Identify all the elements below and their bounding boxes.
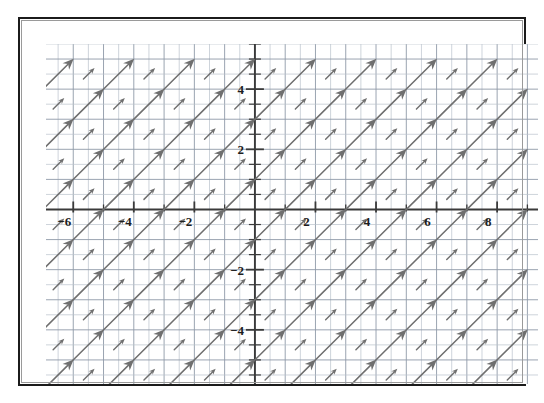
slope-field-arrows xyxy=(46,44,538,384)
figure-frame: −6−4−2246842−2−4 xyxy=(18,17,526,386)
plot-area: −6−4−2246842−2−4 xyxy=(46,44,538,384)
slope-field-figure: −6−4−2246842−2−4 xyxy=(0,0,544,403)
